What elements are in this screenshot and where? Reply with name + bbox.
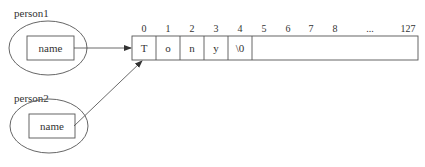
array-cell-3: y bbox=[213, 42, 219, 54]
array-index-ellipsis: ... bbox=[366, 23, 374, 34]
array-index-8: 8 bbox=[333, 23, 338, 34]
array-index-1: 1 bbox=[166, 23, 171, 34]
person1-label: person1 bbox=[14, 7, 49, 19]
array-index-0: 0 bbox=[142, 23, 147, 34]
person1-name-label: name bbox=[39, 42, 63, 54]
pointer-arrow-person2 bbox=[74, 61, 142, 126]
array-cell-2: n bbox=[189, 42, 195, 54]
array-index-2: 2 bbox=[190, 23, 195, 34]
array-cell-4: \0 bbox=[236, 42, 245, 54]
char-array: T o n y \0 0 1 2 3 4 5 6 7 8 ... 127 bbox=[132, 23, 418, 60]
array-cell-1: o bbox=[165, 42, 171, 54]
person1-object: person1 name bbox=[9, 7, 87, 75]
array-index-3: 3 bbox=[214, 23, 219, 34]
array-cell-0: T bbox=[141, 42, 148, 54]
array-index-6: 6 bbox=[286, 23, 291, 34]
array-index-7: 7 bbox=[309, 23, 314, 34]
array-index-4: 4 bbox=[238, 23, 243, 34]
array-index-127: 127 bbox=[401, 23, 416, 34]
array-outline bbox=[132, 36, 418, 60]
person2-name-label: name bbox=[40, 120, 64, 132]
diagram-canvas: person1 name person2 name T o n y \0 0 1… bbox=[0, 0, 425, 167]
array-index-5: 5 bbox=[262, 23, 267, 34]
person2-object: person2 name bbox=[10, 92, 88, 153]
